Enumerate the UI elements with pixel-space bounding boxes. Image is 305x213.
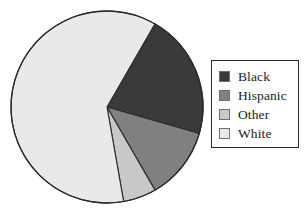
- legend-label-black: Black: [238, 70, 270, 84]
- legend-swatch-white: [219, 128, 230, 139]
- pie-slice-group: [11, 11, 203, 203]
- legend-item-hispanic: Hispanic: [219, 86, 298, 105]
- chart-legend: Black Hispanic Other White: [211, 60, 299, 148]
- legend-item-black: Black: [219, 67, 298, 86]
- legend-item-other: Other: [219, 105, 298, 124]
- legend-swatch-hispanic: [219, 90, 230, 101]
- legend-swatch-other: [219, 109, 230, 120]
- legend-label-white: White: [238, 127, 272, 141]
- legend-swatch-black: [219, 71, 230, 82]
- legend-item-white: White: [219, 124, 298, 143]
- legend-label-other: Other: [238, 108, 269, 122]
- pie-chart-figure: Black Hispanic Other White: [0, 0, 305, 213]
- legend-label-hispanic: Hispanic: [238, 89, 287, 103]
